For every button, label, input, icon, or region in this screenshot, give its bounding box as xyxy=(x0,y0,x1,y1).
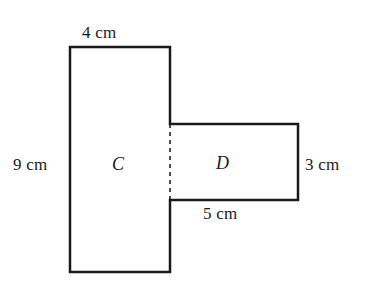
region-label-c: C xyxy=(112,155,124,173)
dimension-label-left-9cm: 9 cm xyxy=(13,156,47,173)
figure-background xyxy=(0,0,373,289)
composite-rectangle-figure xyxy=(0,0,373,289)
region-label-d: D xyxy=(216,154,229,172)
dimension-label-bottom-5cm: 5 cm xyxy=(203,205,237,222)
dimension-label-right-3cm: 3 cm xyxy=(305,156,339,173)
dimension-label-top-4cm: 4 cm xyxy=(82,24,116,41)
figure-canvas: 4 cm 9 cm 3 cm 5 cm C D xyxy=(0,0,373,289)
